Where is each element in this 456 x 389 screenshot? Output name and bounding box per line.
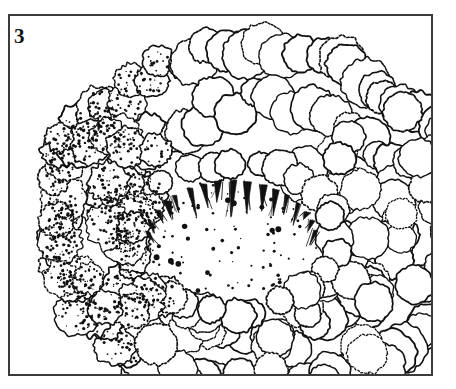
figure-panel: 3 [0, 0, 456, 389]
figure-illustration [10, 16, 431, 374]
panel-number-label: 3 [14, 26, 25, 47]
figure-frame [8, 14, 433, 376]
